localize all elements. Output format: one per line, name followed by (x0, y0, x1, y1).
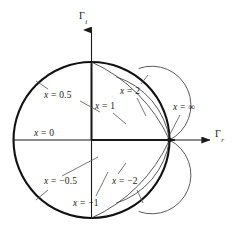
label-x-infinity-value: ∞ (188, 102, 195, 112)
label-x-neg0p5-value: −0.5 (59, 176, 77, 186)
label-x-1-eq: = (99, 101, 110, 111)
gamma-i-axis-label: Γi (79, 10, 87, 24)
label-x-infinity: x = ∞ (173, 102, 195, 112)
label-x-0p5: x = 0.5 (44, 90, 72, 100)
gamma-r-symbol: Γ (215, 128, 221, 139)
label-x-neg2-value: −2 (127, 176, 138, 186)
label-x-1: x = 1 (95, 101, 115, 111)
leader-x-2-b (137, 98, 146, 116)
leader-x-neg2 (118, 163, 126, 174)
label-x-2-eq: = (124, 86, 135, 96)
leader-x-neg0p5-b (36, 190, 48, 200)
label-x-neg2-eq: = (116, 176, 127, 186)
label-x-neg1: x = −1 (73, 198, 99, 208)
gamma-i-symbol: Γ (79, 10, 85, 21)
gamma-r-axis-label: Γr (215, 128, 224, 142)
label-x-0-eq: = (38, 128, 49, 138)
label-x-0p5-eq: = (48, 90, 59, 100)
reactance-arc-x-neg1 (116, 140, 169, 203)
label-x-neg1-eq: = (77, 198, 88, 208)
leader-x-1 (113, 113, 126, 124)
label-x-0-value: 0 (49, 128, 54, 138)
smith-chart-figure: Γi Γr x = 0.5 x = 1 x = 2 x = ∞ x = 0 x … (0, 0, 238, 240)
label-x-neg2: x = −2 (112, 176, 138, 186)
reactance-point-x-infinity (167, 138, 172, 143)
label-x-1-value: 1 (110, 101, 115, 111)
label-x-neg0p5: x = −0.5 (44, 176, 77, 186)
label-x-neg1-value: −1 (88, 198, 99, 208)
leader-x-neg0p5 (62, 157, 98, 176)
chart-canvas (0, 0, 238, 240)
label-x-infinity-eq: = (177, 102, 188, 112)
label-x-2: x = 2 (120, 86, 140, 96)
gamma-r-subscript: r (221, 136, 224, 144)
label-x-0p5-value: 0.5 (59, 90, 71, 100)
label-x-2-value: 2 (135, 86, 140, 96)
leader-x-0p5 (36, 81, 48, 89)
label-x-neg0p5-eq: = (48, 176, 59, 186)
label-x-0: x = 0 (34, 128, 54, 138)
leader-x-neg1 (96, 172, 108, 196)
leader-x-inf (170, 115, 180, 134)
gamma-i-subscript: i (85, 18, 87, 26)
